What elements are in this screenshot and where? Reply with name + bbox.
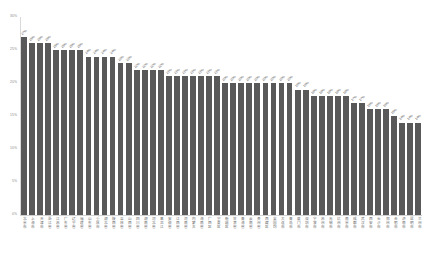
x-axis-category-label: 成都市 [352,217,356,230]
bar[interactable] [182,76,188,215]
bar-value-label: 17% [351,95,358,102]
bar-value-label: 20% [278,75,285,82]
bar[interactable] [238,83,244,215]
x-label-slot: 黑龙江 [157,217,165,266]
x-axis-category-label: 宁夏区 [215,217,219,230]
bar-slot: 21% [165,17,173,215]
bar-value-label: 22% [150,62,157,69]
bar[interactable] [351,103,357,215]
bar[interactable] [343,96,349,215]
bar[interactable] [198,76,204,215]
bar-slot: 14% [406,17,414,215]
x-axis-category-label: 宁波市 [312,217,316,230]
bar-value-label: 25% [77,42,84,49]
bar[interactable] [174,76,180,215]
bar[interactable] [53,50,59,215]
bar[interactable] [295,90,301,215]
bar[interactable] [327,96,333,215]
bar[interactable] [359,103,365,215]
bar-value-label: 15% [391,108,398,115]
bar-value-label: 16% [383,102,390,109]
x-label-slot: 苏州市 [318,217,326,266]
bar[interactable] [21,37,27,215]
bar[interactable] [399,123,405,215]
x-label-slot: 江苏省 [52,217,60,266]
x-label-slot: 海南省 [197,217,205,266]
bar[interactable] [166,76,172,215]
x-axis-category-label: 浙江省 [46,217,50,230]
bar-value-label: 22% [133,62,140,69]
bar-value-label: 21% [206,69,213,76]
x-axis-category-label: 吉林省 [119,217,123,230]
bar[interactable] [246,83,252,215]
bar-slot: 24% [100,17,108,215]
bar[interactable] [303,90,309,215]
bar[interactable] [254,83,260,215]
bar[interactable] [311,96,317,215]
bar[interactable] [37,43,43,215]
bar[interactable] [190,76,196,215]
bar-slot: 21% [181,17,189,215]
x-label-slot: 上海市 [28,217,36,266]
bar-slot: 20% [221,17,229,215]
x-label-slot: 山西省 [125,217,133,266]
bar[interactable] [61,50,67,215]
bar[interactable] [45,43,51,215]
x-axis-category-label: 苏州市 [320,217,324,230]
x-label-slot: 内蒙古 [189,217,197,266]
bar[interactable] [287,83,293,215]
bar-value-label: 14% [399,115,406,122]
x-axis-category-label: 新疆区 [223,217,227,230]
bar[interactable] [375,109,381,215]
bar[interactable] [142,70,148,215]
x-axis-category-label: 贵州省 [256,217,260,230]
x-axis-category-label: 全国均 [272,217,276,230]
bar[interactable] [263,83,269,215]
bar[interactable] [134,70,140,215]
bar-value-label: 14% [407,115,414,122]
bar[interactable] [158,70,164,215]
x-axis-category-label: 重庆市 [95,217,99,230]
bar-value-label: 14% [415,115,422,122]
bar[interactable] [214,76,220,215]
x-label-slot: 北京市 [20,217,28,266]
bar[interactable] [86,57,92,215]
bar[interactable] [126,63,132,215]
bar[interactable] [407,123,413,215]
bar-chart: 30%25%20%15%10%5%0% 27%26%26%26%25%25%25… [0,0,426,266]
bar[interactable] [391,116,397,215]
bar-value-label: 26% [29,36,36,43]
x-axis-category-label: 兰州市 [416,217,420,230]
x-label-slot: 天津市 [36,217,44,266]
bar[interactable] [271,83,277,215]
x-axis-category-label: 山东省 [87,217,91,230]
bar[interactable] [279,83,285,215]
bar[interactable] [69,50,75,215]
bar[interactable] [77,50,83,215]
bar-slot: 20% [261,17,269,215]
bar-slot: 14% [398,17,406,215]
bar[interactable] [335,96,341,215]
bar[interactable] [102,57,108,215]
bar[interactable] [118,63,124,215]
bar[interactable] [222,83,228,215]
bar[interactable] [367,109,373,215]
x-axis-category-label: 西藏区 [264,217,268,230]
x-axis-line [20,215,422,216]
bar[interactable] [94,57,100,215]
bar[interactable] [29,43,35,215]
bar[interactable] [319,96,325,215]
x-label-slot: 深圳市 [302,217,310,266]
bar-slot: 17% [358,17,366,215]
bar[interactable] [230,83,236,215]
bar[interactable] [206,76,212,215]
x-label-slot: 南京市 [342,217,350,266]
bar[interactable] [110,57,116,215]
x-axis-category-label: 四川省 [135,217,139,230]
bar[interactable] [150,70,156,215]
bar[interactable] [415,123,421,215]
x-axis-category-label: 青岛市 [288,217,292,230]
y-axis-tick: 20% [10,81,17,84]
bar[interactable] [383,109,389,215]
bar-slot: 16% [366,17,374,215]
